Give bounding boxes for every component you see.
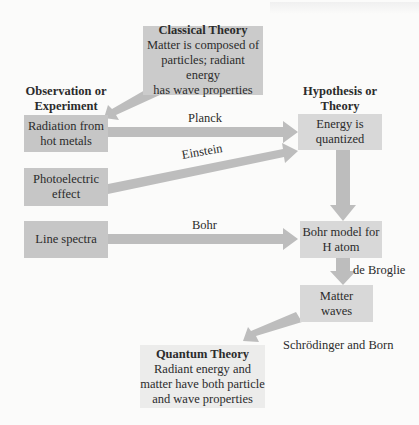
classical-theory-line: has wave properties: [153, 83, 252, 98]
hypothesis-box-matter-waves: Matter waves: [300, 285, 373, 322]
hypothesis-heading-line: Theory: [298, 99, 382, 114]
box-text: Energy is: [316, 117, 363, 132]
classical-theory-line: particles; radiant energy: [143, 53, 263, 83]
planck-label: Planck: [188, 111, 222, 126]
bohr-label: Bohr: [192, 218, 217, 233]
hypothesis-heading: Hypothesis or Theory: [298, 84, 382, 114]
box-text: Matter: [320, 289, 353, 304]
box-text: waves: [321, 304, 352, 319]
observation-box-radiation: Radiation from hot metals: [24, 115, 108, 152]
box-text: effect: [52, 187, 80, 202]
quantum-theory-title: Quantum Theory: [156, 347, 249, 362]
de-broglie-label: de Broglie: [353, 263, 405, 278]
hypothesis-box-bohr-model: Bohr model for H atom: [300, 221, 382, 258]
observation-box-photoelectric: Photoelectric effect: [24, 168, 108, 206]
observation-heading: Observation or Experiment: [20, 84, 112, 114]
observation-heading-line: Experiment: [20, 99, 112, 114]
quantum-theory-line: matter have both particle: [140, 377, 265, 392]
box-text: hot metals: [40, 134, 92, 149]
box-text: Bohr model for: [302, 225, 379, 240]
box-text: H atom: [322, 240, 359, 255]
classical-theory-box: Classical Theory Matter is composed of p…: [143, 26, 263, 95]
classical-theory-line: Matter is composed of: [147, 38, 259, 53]
quantum-theory-box: Quantum Theory Radiant energy and matter…: [140, 345, 265, 408]
quantum-theory-flow-diagram: Classical Theory Matter is composed of p…: [0, 0, 419, 425]
hypothesis-heading-line: Hypothesis or: [298, 84, 382, 99]
arrow-energy-to-bohr: [330, 150, 356, 221]
hypothesis-box-energy-quantized: Energy is quantized: [298, 114, 382, 150]
box-text: quantized: [316, 132, 365, 147]
observation-heading-line: Observation or: [20, 84, 112, 99]
box-text: Line spectra: [35, 232, 96, 247]
quantum-theory-line: and wave properties: [152, 392, 253, 407]
classical-theory-title: Classical Theory: [158, 23, 247, 38]
box-text: Radiation from: [28, 119, 104, 134]
observation-box-line-spectra: Line spectra: [24, 221, 108, 258]
quantum-theory-line: Radiant energy and: [154, 362, 251, 377]
box-text: Photoelectric: [33, 172, 99, 187]
schrodinger-born-label: Schrödinger and Born: [283, 338, 393, 353]
